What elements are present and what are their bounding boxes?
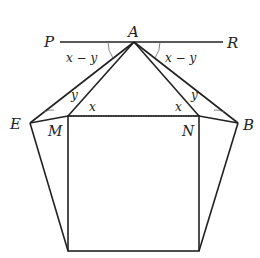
angle-label-right-top: x − y xyxy=(165,51,196,65)
angle-label-left-y: y xyxy=(70,88,78,102)
label-A: A xyxy=(126,23,139,41)
angle-label-right-x: x xyxy=(175,100,182,114)
geometry-diagram: P A R E M N B x − y x − y y x x y xyxy=(0,0,260,258)
angle-label-right-y: y xyxy=(190,88,198,102)
segment-B-bottom xyxy=(199,123,238,251)
label-B: B xyxy=(242,116,254,134)
square-MN xyxy=(68,116,199,251)
label-N: N xyxy=(181,123,195,139)
segment-NB xyxy=(199,116,238,123)
label-P: P xyxy=(43,33,55,51)
angle-label-left-x: x xyxy=(89,100,96,114)
diagram-svg: P A R E M N B x − y x − y y x x y xyxy=(0,0,260,258)
arc-right-angle xyxy=(155,42,160,58)
label-R: R xyxy=(226,34,238,52)
arc-left-angle xyxy=(108,42,113,58)
angle-label-left-top: x − y xyxy=(66,51,97,65)
segment-E-bottom xyxy=(30,123,68,251)
label-E: E xyxy=(9,115,21,133)
label-M: M xyxy=(47,123,63,139)
